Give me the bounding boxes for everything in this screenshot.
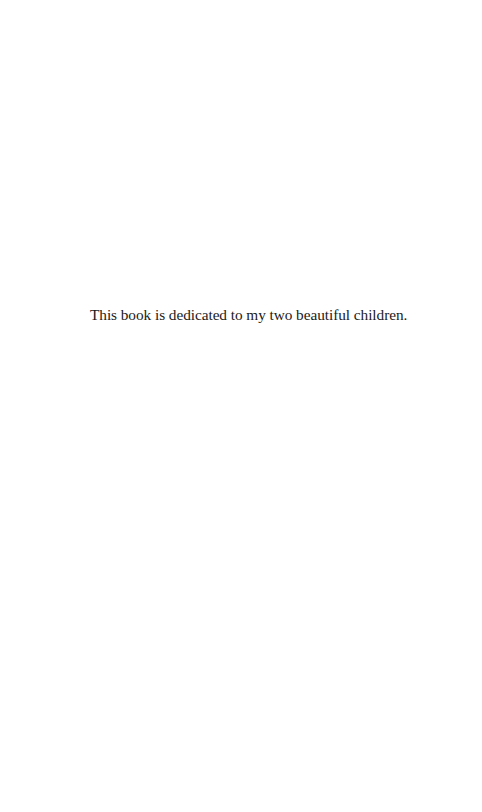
book-page: This book is dedicated to my two beautif… <box>0 0 482 812</box>
dedication-text: This book is dedicated to my two beautif… <box>90 306 407 324</box>
